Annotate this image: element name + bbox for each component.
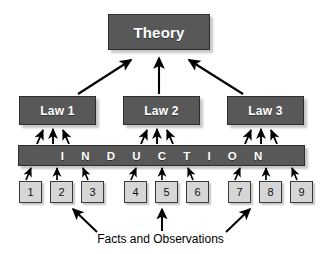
fact-box-7[interactable]: 7 (228, 181, 251, 203)
theory-label: Theory (133, 24, 184, 41)
theory-node[interactable]: Theory (108, 14, 210, 50)
diagram-canvas: Theory Law 1 Law 2 Law 3 I N D U C T I O… (0, 0, 321, 254)
law-node-2[interactable]: Law 2 (123, 96, 200, 125)
arrow-law1-to-theory (78, 60, 131, 94)
fact-box-6[interactable]: 6 (186, 181, 209, 203)
fact-label-9: 9 (298, 187, 304, 198)
fact-box-5[interactable]: 5 (155, 181, 178, 203)
fact-box-4[interactable]: 4 (124, 181, 147, 203)
arrow-caption-to-left-facts (73, 209, 97, 232)
arrow-law3-to-theory (189, 60, 243, 94)
arrow-fact4-to-induction (131, 168, 136, 180)
induction-bar[interactable]: I N D U C T I O N (18, 145, 305, 166)
law-label-1: Law 1 (40, 104, 74, 118)
arrow-induction-to-law1 (37, 129, 69, 144)
arrow-fact9-to-induction (292, 168, 297, 180)
arrow-fact3-to-induction (83, 168, 88, 180)
fact-label-4: 4 (132, 187, 138, 198)
arrow-fact1-to-induction (26, 168, 31, 180)
arrow-fact7-to-induction (235, 168, 240, 180)
fact-box-1[interactable]: 1 (19, 181, 42, 203)
fact-box-3[interactable]: 3 (81, 181, 104, 203)
fact-label-7: 7 (236, 187, 242, 198)
fact-box-8[interactable]: 8 (259, 181, 282, 203)
law-node-1[interactable]: Law 1 (19, 96, 96, 125)
fact-box-2[interactable]: 2 (50, 181, 73, 203)
fact-label-1: 1 (27, 187, 33, 198)
fact-label-6: 6 (194, 187, 200, 198)
arrow-induction-to-law2 (141, 129, 173, 144)
fact-label-5: 5 (163, 187, 169, 198)
fact-label-2: 2 (58, 187, 64, 198)
arrow-caption-to-right-facts (226, 209, 250, 232)
fact-box-9[interactable]: 9 (290, 181, 313, 203)
fact-label-3: 3 (89, 187, 95, 198)
facts-caption: Facts and Observations (0, 232, 321, 246)
arrow-induction-to-law3 (245, 129, 277, 144)
law-label-3: Law 3 (248, 104, 282, 118)
induction-label: I N D U C T I O N (54, 150, 269, 162)
law-label-2: Law 2 (144, 104, 178, 118)
arrow-fact6-to-induction (188, 168, 193, 180)
law-node-3[interactable]: Law 3 (227, 96, 304, 125)
fact-label-8: 8 (267, 187, 273, 198)
